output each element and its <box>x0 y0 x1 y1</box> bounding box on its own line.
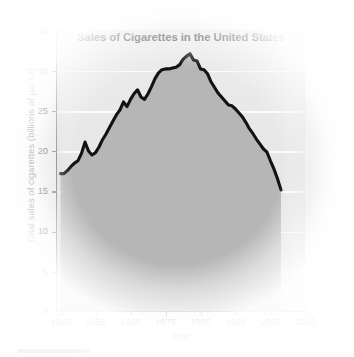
y-axis-title: Total sales of cigarettes (billions of p… <box>25 31 36 281</box>
chart-figure: Sales of Cigarettes in the United States… <box>0 0 354 357</box>
chart-title: Sales of Cigarettes in the United States <box>57 30 305 44</box>
x-tick-label-1985: 1985 <box>184 317 218 327</box>
x-axis-line <box>56 311 306 312</box>
y-tick-mark-5 <box>52 272 57 273</box>
x-tick-label-2015: 2015 <box>289 317 323 327</box>
x-tick-label-1995: 1995 <box>219 317 253 327</box>
y-tick-mark-15 <box>52 191 57 192</box>
x-tick-mark-1995 <box>236 311 237 316</box>
x-tick-label-1975: 1975 <box>149 317 183 327</box>
chart-canvas: Sales of Cigarettes in the United States… <box>0 0 354 357</box>
x-tick-mark-1985 <box>201 311 202 316</box>
y-tick-mark-30 <box>52 71 57 72</box>
y-tick-mark-25 <box>52 111 57 112</box>
area-fill <box>61 54 282 311</box>
x-tick-mark-1955 <box>96 311 97 316</box>
x-tick-mark-1975 <box>166 311 167 316</box>
x-tick-mark-2005 <box>271 311 272 316</box>
y-tick-mark-10 <box>52 232 57 233</box>
x-tick-label-1945: 1945 <box>44 317 78 327</box>
x-axis-title: Year <box>57 330 305 341</box>
x-tick-label-2005: 2005 <box>254 317 288 327</box>
y-tick-mark-20 <box>52 151 57 152</box>
data-series-area <box>57 30 305 311</box>
y-tick-label-0: 0 <box>26 306 48 316</box>
y-tick-mark-0 <box>52 311 57 312</box>
y-tick-mark-35 <box>52 31 57 32</box>
y-axis-line <box>56 30 57 312</box>
x-tick-mark-1965 <box>131 311 132 316</box>
x-tick-mark-2015 <box>306 311 307 316</box>
x-tick-mark-1945 <box>61 311 62 316</box>
x-tick-label-1955: 1955 <box>79 317 113 327</box>
x-tick-label-1965: 1965 <box>114 317 148 327</box>
bottom-rule <box>18 349 90 353</box>
